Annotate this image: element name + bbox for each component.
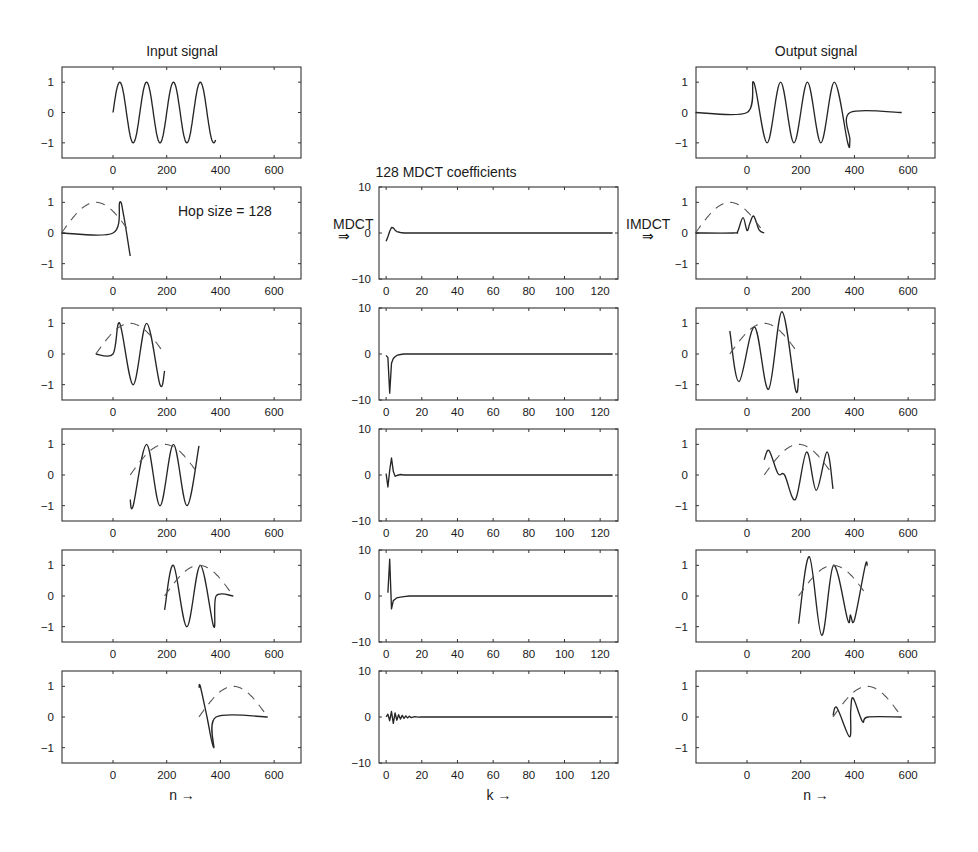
y-tick-label: −1 — [41, 500, 54, 512]
y-tick-label: 1 — [682, 680, 688, 692]
y-tick-label: −1 — [675, 137, 688, 149]
output-column-title: Output signal — [775, 43, 858, 59]
x-tick-label: 20 — [415, 648, 428, 660]
y-tick-label: 0 — [365, 711, 371, 723]
x-tick-label: 0 — [110, 769, 116, 781]
x-tick-label: 200 — [157, 285, 176, 297]
x-tick-label: 400 — [211, 285, 230, 297]
x-tick-label: 0 — [110, 648, 116, 660]
plot-output-row-3: 020040060010−1 — [675, 308, 935, 418]
y-tick-label: 10 — [358, 181, 371, 193]
y-tick-label: 0 — [48, 107, 54, 119]
plot-mdct-row-3: 020406080100120100−10 — [351, 302, 618, 418]
y-tick-label: −1 — [41, 379, 54, 391]
y-tick-label: 0 — [365, 227, 371, 239]
mdct-figure: Input signal 128 MDCT coefficients Outpu… — [0, 0, 978, 852]
x-tick-label: 0 — [110, 406, 116, 418]
x-tick-label: 200 — [791, 769, 810, 781]
y-tick-label: 10 — [358, 665, 371, 677]
y-tick-label: 10 — [358, 544, 371, 556]
y-tick-label: −1 — [675, 379, 688, 391]
plot-mdct-row-2: 020406080100120100−10 — [351, 181, 618, 297]
x-tick-label: 60 — [487, 648, 500, 660]
mdct-arrow-icon: ⇒ — [338, 228, 350, 244]
x-tick-label: 60 — [487, 285, 500, 297]
y-tick-label: −1 — [41, 742, 54, 754]
y-tick-label: 1 — [48, 438, 54, 450]
plot-frame — [62, 429, 301, 521]
x-tick-label: 120 — [591, 769, 610, 781]
y-tick-label: −10 — [351, 515, 371, 527]
x-tick-label: 200 — [791, 164, 810, 176]
x-tick-label: 200 — [791, 527, 810, 539]
y-tick-label: −1 — [41, 137, 54, 149]
x-tick-label: 20 — [415, 527, 428, 539]
signal-curve — [165, 565, 234, 627]
plot-output-row-4: 020040060010−1 — [675, 429, 935, 539]
x-tick-label: 600 — [265, 164, 284, 176]
plot-frame — [696, 308, 935, 400]
y-tick-label: 0 — [682, 590, 688, 602]
y-tick-label: 0 — [365, 469, 371, 481]
x-tick-label: 0 — [744, 164, 750, 176]
x-tick-label: 600 — [265, 769, 284, 781]
x-tick-label: 120 — [591, 648, 610, 660]
plot-frame — [62, 187, 301, 279]
x-tick-label: 0 — [383, 648, 389, 660]
x-tick-label: 0 — [744, 406, 750, 418]
x-tick-label: 200 — [157, 164, 176, 176]
x-tick-label: 400 — [845, 285, 864, 297]
plot-output-row-2: 020040060010−1 — [675, 187, 935, 297]
y-tick-label: 0 — [48, 711, 54, 723]
x-tick-label: 20 — [415, 406, 428, 418]
window-curve — [696, 202, 765, 233]
x-tick-label: 60 — [487, 769, 500, 781]
x-tick-label: 400 — [845, 769, 864, 781]
x-tick-label: 400 — [211, 648, 230, 660]
mdct-column-title: 128 MDCT coefficients — [375, 164, 516, 180]
x-tick-label: 40 — [451, 527, 464, 539]
window-curve — [199, 686, 268, 717]
x-tick-label: 600 — [899, 769, 918, 781]
y-tick-label: 1 — [48, 680, 54, 692]
y-tick-label: 1 — [682, 196, 688, 208]
plot-input-row-6: 020040060010−1 — [41, 671, 301, 781]
window-curve — [130, 444, 199, 475]
x-tick-label: 0 — [383, 285, 389, 297]
signal-curve — [388, 559, 613, 609]
y-tick-label: 0 — [682, 469, 688, 481]
plot-output-row-6: 020040060010−1 — [675, 671, 935, 781]
x-tick-label: 40 — [451, 769, 464, 781]
y-tick-label: −10 — [351, 394, 371, 406]
x-tick-label: 120 — [591, 527, 610, 539]
x-tick-label: 40 — [451, 648, 464, 660]
x-tick-label: 80 — [522, 769, 535, 781]
y-tick-label: −1 — [675, 258, 688, 270]
x-tick-label: 80 — [522, 648, 535, 660]
y-tick-label: 0 — [365, 590, 371, 602]
y-tick-label: 0 — [682, 711, 688, 723]
x-tick-label: 0 — [110, 164, 116, 176]
plot-input-row-4: 020040060010−1 — [41, 429, 301, 539]
x-tick-label: 200 — [791, 406, 810, 418]
window-curve — [833, 686, 902, 717]
y-tick-label: 10 — [358, 423, 371, 435]
x-tick-label: 400 — [211, 406, 230, 418]
x-tick-label: 0 — [383, 406, 389, 418]
y-tick-label: 10 — [358, 302, 371, 314]
x-tick-label: 120 — [591, 285, 610, 297]
y-tick-label: −10 — [351, 273, 371, 285]
signal-curve — [130, 444, 199, 508]
y-tick-label: 1 — [48, 317, 54, 329]
x-tick-label: 200 — [791, 648, 810, 660]
y-tick-label: 1 — [682, 317, 688, 329]
signal-curve — [62, 202, 131, 256]
x-tick-label: 100 — [555, 769, 574, 781]
x-tick-label: 600 — [265, 406, 284, 418]
x-tick-label: 200 — [157, 769, 176, 781]
x-tick-label: 0 — [744, 648, 750, 660]
x-tick-label: 80 — [522, 406, 535, 418]
x-tick-label: 100 — [555, 648, 574, 660]
x-tick-label: 0 — [383, 527, 389, 539]
y-tick-label: 0 — [682, 107, 688, 119]
